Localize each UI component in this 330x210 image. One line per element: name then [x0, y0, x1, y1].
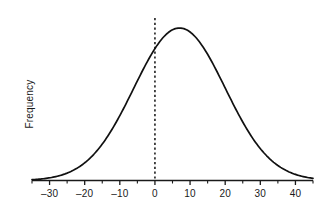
plot-area [0, 0, 330, 210]
chart-figure: –30–20–10010203040 Frequency [0, 0, 330, 210]
distribution-curve [32, 28, 313, 180]
y-axis-label: Frequency [24, 80, 35, 129]
